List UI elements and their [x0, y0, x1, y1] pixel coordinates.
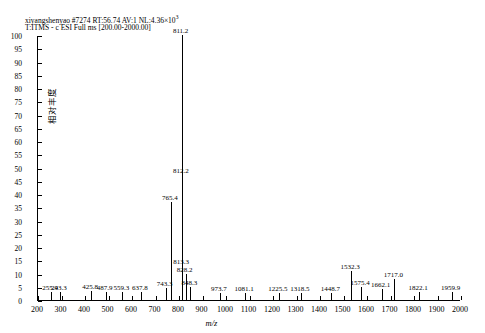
peak-label: 765.4 — [162, 194, 178, 202]
y-axis-tick-label: 0 — [18, 297, 22, 306]
x-axis-tick — [179, 296, 180, 300]
y-axis-tick — [38, 222, 42, 223]
peak-label: 1662.1 — [371, 281, 390, 289]
peak-label: 1575.4 — [351, 279, 370, 287]
y-axis-tick-label: 35 — [15, 204, 23, 213]
peak-label: 487.9 — [97, 284, 113, 292]
x-axis-tick-label: 1000 — [217, 305, 233, 314]
plot-area — [37, 36, 460, 301]
spectrum-peak — [122, 292, 123, 300]
y-axis-tick-label: 25 — [15, 230, 23, 239]
x-axis-tick-label: 1700 — [382, 305, 398, 314]
y-axis-tick — [38, 248, 42, 249]
x-axis-tick-label: 500 — [102, 305, 114, 314]
spectrum-peak — [452, 292, 453, 300]
spectrum-peak — [361, 287, 362, 300]
spectrum-peak — [220, 293, 221, 300]
spectrum-peak — [279, 293, 280, 300]
y-axis-tick — [38, 261, 42, 262]
peak-label: 425.8 — [82, 283, 98, 291]
peak-label: 813.3 — [173, 258, 189, 266]
y-axis-tick — [38, 275, 42, 276]
x-axis-tick — [85, 296, 86, 300]
spectrum-peak — [141, 292, 142, 300]
spectrum-peak — [301, 293, 302, 300]
spectrum-peak — [91, 291, 92, 300]
x-axis-tick-label: 700 — [149, 305, 161, 314]
x-axis-tick — [38, 296, 39, 300]
peak-label: 743.3 — [157, 280, 173, 288]
y-axis-tick — [38, 301, 42, 302]
y-axis-tick-label: 45 — [15, 177, 23, 186]
x-axis-tick-label: 400 — [78, 305, 90, 314]
y-axis-tick-label: 95 — [15, 45, 23, 54]
y-axis-tick-label: 85 — [15, 71, 23, 80]
y-axis-tick-label: 90 — [15, 58, 23, 67]
y-axis-tick — [38, 155, 42, 156]
x-axis-tick — [226, 296, 227, 300]
y-axis-tick — [38, 102, 42, 103]
x-axis-tick-label: 1600 — [358, 305, 374, 314]
y-axis-tick — [38, 235, 42, 236]
peak-label: 1448.7 — [321, 285, 340, 293]
x-axis-tick-label: 600 — [125, 305, 137, 314]
peak-label: 1318.5 — [290, 285, 309, 293]
y-axis-tick — [38, 76, 42, 77]
y-axis-tick — [38, 116, 42, 117]
x-axis-tick — [156, 296, 157, 300]
x-axis-tick-label: 1800 — [405, 305, 421, 314]
x-axis-tick — [367, 296, 368, 300]
y-axis-tick — [38, 129, 42, 130]
peak-label: 1959.9 — [441, 284, 460, 292]
x-axis-tick-label: 900 — [196, 305, 208, 314]
y-axis-tick — [38, 195, 42, 196]
peak-label: 637.8 — [132, 284, 148, 292]
spectrum-peak — [419, 292, 420, 300]
x-axis-tick — [203, 296, 204, 300]
y-axis-tick-label: 70 — [15, 111, 23, 120]
x-axis-tick — [250, 296, 251, 300]
spectrum-peak — [166, 288, 167, 300]
peak-label: 559.3 — [114, 284, 130, 292]
peak-label: 293.3 — [51, 284, 67, 292]
y-axis-tick — [38, 182, 42, 183]
y-axis-tick-label: 50 — [15, 164, 23, 173]
peak-label: 1225.5 — [268, 285, 287, 293]
x-axis-tick-label: 1500 — [335, 305, 351, 314]
y-axis-tick — [38, 49, 42, 50]
header-line-1-exponent: 3 — [176, 14, 179, 20]
peak-label: 1822.1 — [409, 284, 428, 292]
y-axis-tick-label: 5 — [18, 283, 22, 292]
x-axis-title: m/z — [0, 318, 423, 328]
spectrum-figure: xiyangshenyao #7274 RT:56.74 AV:1 NL:4.3… — [0, 0, 485, 333]
x-axis-tick-label: 1100 — [241, 305, 257, 314]
y-axis-tick-label: 15 — [15, 257, 23, 266]
x-axis-tick — [438, 296, 439, 300]
y-axis-tick — [38, 89, 42, 90]
x-axis-tick — [273, 296, 274, 300]
peak-label: 811.2 — [173, 27, 189, 35]
y-axis-tick-label: 30 — [15, 217, 23, 226]
x-axis-tick — [297, 296, 298, 300]
y-axis-tick-label: 55 — [15, 151, 23, 160]
peak-label: 1532.3 — [340, 263, 359, 271]
spectrum-peak — [331, 293, 332, 300]
spectrum-peak — [51, 292, 52, 300]
x-axis-tick-label: 300 — [55, 305, 67, 314]
x-axis-tick — [109, 296, 110, 300]
y-axis-tick-label: 60 — [15, 138, 23, 147]
x-axis-tick — [391, 296, 392, 300]
x-axis-tick-label: 800 — [172, 305, 184, 314]
peak-label: 812.2 — [173, 167, 189, 175]
spectrum-peak — [106, 292, 107, 300]
x-axis-tick-label: 200 — [31, 305, 43, 314]
peak-label: 848.3 — [181, 279, 197, 287]
x-axis-tick — [132, 296, 133, 300]
y-axis-tick-label: 10 — [15, 270, 23, 279]
y-axis-tick-label: 65 — [15, 124, 23, 133]
x-axis-tick — [344, 296, 345, 300]
y-axis-tick-label: 75 — [15, 98, 23, 107]
x-axis-tick — [320, 296, 321, 300]
y-axis-tick-label: 100 — [11, 32, 22, 41]
y-axis-tick — [38, 63, 42, 64]
